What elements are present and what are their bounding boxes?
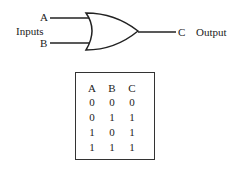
cell: 0 xyxy=(106,97,118,108)
cell: 1 xyxy=(106,112,118,123)
cell: 0 xyxy=(86,112,98,123)
cell: 1 xyxy=(86,127,98,138)
inputs-label: Inputs xyxy=(16,26,44,37)
header-b: B xyxy=(106,83,118,94)
input-b-label: B xyxy=(40,38,47,49)
input-a-label: A xyxy=(40,12,48,23)
cell: 1 xyxy=(126,142,138,153)
cell: 1 xyxy=(126,112,138,123)
cell: 1 xyxy=(126,127,138,138)
cell: 0 xyxy=(106,127,118,138)
cell: 0 xyxy=(86,97,98,108)
header-a: A xyxy=(86,83,98,94)
truth-table: A B C 0 0 0 0 1 1 1 0 1 1 1 1 xyxy=(75,72,155,160)
or-gate-symbol xyxy=(86,13,138,50)
output-label: Output xyxy=(196,27,227,38)
cell: 1 xyxy=(86,142,98,153)
header-c: C xyxy=(126,83,138,94)
cell: 1 xyxy=(106,142,118,153)
output-c-label: C xyxy=(178,27,185,38)
cell: 0 xyxy=(126,97,138,108)
